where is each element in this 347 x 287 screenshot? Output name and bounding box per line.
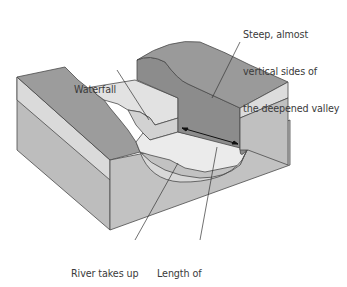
gorge-diagram: Steep, almost vertical sides of the deep… xyxy=(0,0,347,287)
label-line: Steep, almost xyxy=(243,29,339,41)
label-line: vertical sides of xyxy=(243,66,339,78)
label-line: Length of xyxy=(157,268,202,280)
label-gorge-length: Length of gorge xyxy=(157,243,202,287)
label-waterfall: Waterfall xyxy=(74,59,116,121)
label-line: the deepened valley xyxy=(243,103,339,115)
label-line: Waterfall xyxy=(74,84,116,96)
label-river-width: River takes up whole width of valley xyxy=(71,243,138,287)
label-line: River takes up xyxy=(71,268,138,280)
label-steep-sides: Steep, almost vertical sides of the deep… xyxy=(243,4,339,140)
